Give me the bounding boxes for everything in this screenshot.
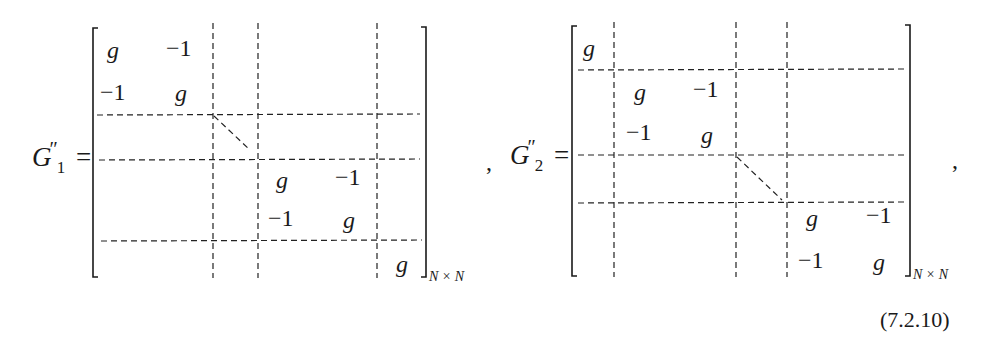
matrix-entry: −1 [626, 120, 652, 144]
matrix-entry: g [107, 38, 119, 62]
matrix-entry: g [873, 250, 885, 274]
comma: , [952, 148, 958, 172]
comma: , [486, 150, 492, 174]
matrix-entry: g [583, 36, 595, 60]
double-prime: ″ [50, 138, 57, 160]
right-bracket-2 [905, 25, 910, 276]
matrix-entry: g [276, 168, 288, 192]
double-prime: ″ [528, 136, 535, 158]
matrix-2-label: G″2 = [510, 142, 569, 169]
subscript: 1 [57, 158, 66, 177]
equation-number: (7.2.10) [880, 309, 950, 331]
matrix-entry: −1 [335, 165, 361, 189]
subscript: 2 [535, 156, 544, 175]
matrix-entry: g [396, 252, 408, 276]
dimension-label: N × N [913, 268, 948, 282]
matrix-1-label: G″1 = [32, 144, 91, 171]
matrix-entry: −1 [166, 36, 192, 60]
matrix-entry: g [701, 123, 713, 147]
dimension-label: N × N [429, 270, 464, 284]
matrix-entry: −1 [100, 80, 126, 104]
matrix-entry: −1 [268, 206, 294, 230]
matrix-name: G [510, 140, 530, 170]
equation-figure: G″1 = g −1 −1 g g −1 −1 g g N × N , G″2 … [0, 0, 981, 344]
matrix-entry: g [343, 208, 355, 232]
left-bracket-2 [572, 26, 577, 276]
matrix-entry: −1 [866, 203, 892, 227]
matrix-entry: −1 [693, 77, 719, 101]
left-bracket-1 [93, 28, 98, 277]
equals-sign: = [554, 140, 569, 170]
matrix-entry: g [634, 80, 646, 104]
matrix-entry: g [175, 81, 187, 105]
matrix-name: G [32, 142, 52, 172]
equals-sign: = [76, 142, 91, 172]
matrix-entry: −1 [798, 248, 824, 272]
matrix-entry: g [806, 206, 818, 230]
